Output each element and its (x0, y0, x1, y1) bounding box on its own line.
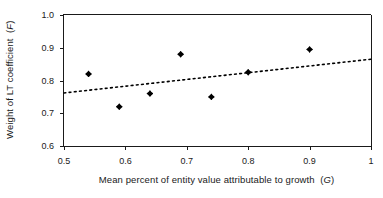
chart-figure: Weight of LT coefficient (F) 0.60.70.80.… (0, 0, 383, 198)
y-tick: 0.9 (60, 48, 64, 49)
y-tick: 0.7 (60, 113, 64, 114)
plot-area: 0.60.70.80.91.0 0.50.60.70.80.91 (63, 15, 372, 147)
x-axis-label-symbol-close: ) (331, 174, 334, 185)
x-tick: 0.9 (310, 146, 311, 150)
x-tick: 0.6 (125, 146, 126, 150)
y-tick-label: 0.6 (41, 141, 54, 151)
x-axis-label-symbol: G (323, 174, 331, 185)
x-tick: 0.7 (187, 146, 188, 150)
y-tick-label: 0.8 (41, 76, 54, 86)
y-tick-label: 1.0 (41, 10, 54, 20)
x-tick-label: 0.5 (58, 156, 71, 166)
trendline (64, 15, 371, 146)
x-tick: 1 (371, 146, 372, 150)
y-axis-label: Weight of LT coefficient (F) (0, 0, 20, 160)
y-axis-label-symbol-close: ) (4, 21, 15, 24)
y-tick: 1.0 (60, 15, 64, 16)
x-tick: 0.8 (248, 146, 249, 150)
y-tick: 0.8 (60, 81, 64, 82)
x-tick-label: 0.7 (181, 156, 194, 166)
x-tick-label: 0.8 (242, 156, 255, 166)
x-axis-label: Mean percent of entity value attributabl… (63, 174, 370, 185)
x-axis-label-text: Mean percent of entity value attributabl… (99, 174, 315, 185)
y-tick-label: 0.7 (41, 108, 54, 118)
y-tick-label: 0.9 (41, 43, 54, 53)
y-axis-label-symbol-open: ( (4, 30, 15, 36)
x-tick: 0.5 (64, 146, 65, 150)
trendline-segment (64, 59, 371, 93)
y-axis-label-symbol: F (4, 24, 15, 30)
x-tick-label: 0.6 (119, 156, 132, 166)
x-tick-label: 0.9 (303, 156, 316, 166)
x-tick-label: 1 (368, 156, 373, 166)
y-axis-label-text: Weight of LT coefficient (4, 39, 15, 139)
